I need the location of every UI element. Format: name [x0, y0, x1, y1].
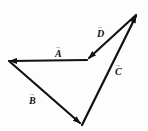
vector-diagram: A → B → C → D → [0, 0, 148, 131]
vector-a-line [10, 60, 87, 61]
vector-diagram-svg: A → B → C → D → [0, 0, 148, 131]
svg-text:→: → [55, 44, 61, 50]
svg-text:→: → [97, 24, 103, 30]
label-d: D → [96, 24, 104, 39]
label-c: C → [115, 62, 122, 77]
vector-c-line [82, 16, 136, 125]
svg-text:→: → [29, 91, 35, 97]
vector-b-line [9, 61, 80, 123]
svg-text:→: → [115, 62, 121, 68]
label-a: A → [54, 44, 62, 59]
label-b: B → [28, 91, 36, 106]
